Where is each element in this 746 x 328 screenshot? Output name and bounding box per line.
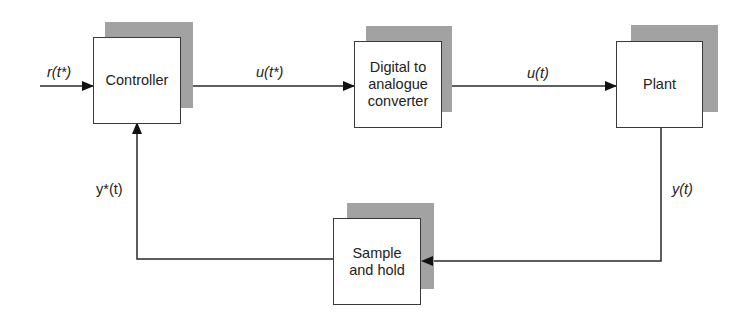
signal-label-plant-output: y(t) <box>672 181 693 197</box>
signal-label-reference: r(t*) <box>47 64 71 80</box>
sample-hold-label-line2: and hold <box>349 262 405 278</box>
dac-block: Digital to analogue converter <box>354 41 442 128</box>
sample-hold-label-line1: Sample <box>352 245 401 261</box>
signal-label-plant-input: u(t) <box>527 65 549 81</box>
plant-to-sample-hold-arrow <box>421 127 661 261</box>
signal-label-sampled-feedback: y*(t) <box>96 181 123 197</box>
dac-label-line1: Digital to <box>370 59 426 75</box>
controller-label: Controller <box>106 72 169 89</box>
sample-hold-block: Sample and hold <box>333 218 421 305</box>
plant-block: Plant <box>616 41 703 128</box>
dac-label-line3: converter <box>368 93 428 109</box>
feedback-to-controller-arrow <box>137 123 333 259</box>
plant-label: Plant <box>643 76 676 93</box>
controller-block: Controller <box>93 37 181 124</box>
signal-label-controller-output: u(t*) <box>256 64 283 80</box>
dac-label-line2: analogue <box>368 76 428 92</box>
